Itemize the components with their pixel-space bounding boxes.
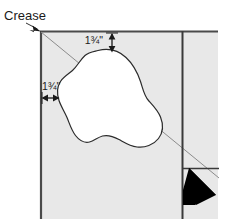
- diagram-canvas: 1¾" 1¾" Crease: [0, 0, 226, 219]
- crease-annotation-group: Crease: [4, 8, 46, 32]
- dimension-left-label: 1¾": [42, 80, 61, 92]
- dimension-top-label: 1¾": [85, 34, 104, 46]
- crease-label: Crease: [4, 8, 46, 23]
- crease-diagram-figure: 1¾" 1¾" Crease: [0, 0, 226, 219]
- leader-arrow-icon: [30, 26, 42, 33]
